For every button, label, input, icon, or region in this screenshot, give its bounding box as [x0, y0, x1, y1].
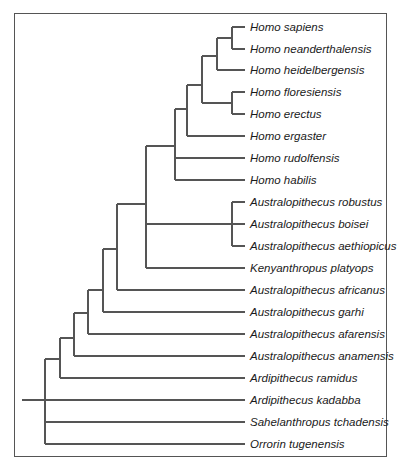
branch-heidelbergensis-clade	[217, 38, 245, 70]
leaf-label: Sahelanthropus tchadensis	[250, 415, 389, 429]
leaf-label: Homo sapiens	[250, 20, 324, 34]
leaf-label: Australopithecus anamensis	[250, 349, 394, 363]
leaf-label: Homo erectus	[250, 107, 322, 121]
leaf-label: Australopithecus africanus	[250, 283, 385, 297]
leaf-label: Australopithecus aethiopicus	[250, 239, 396, 253]
leaf-label: Australopithecus garhi	[250, 305, 364, 319]
leaf-label: Homo neanderthalensis	[250, 42, 371, 56]
leaf-label: Homo heidelbergensis	[250, 63, 364, 77]
leaf-label: Australopithecus afarensis	[250, 327, 385, 341]
leaf-label: Australopithecus boisei	[250, 217, 368, 231]
leaf-label: Ardipithecus kadabba	[250, 393, 361, 407]
leaf-label: Australopithecus robustus	[250, 195, 382, 209]
branch-root	[22, 359, 245, 444]
leaf-label: Kenyanthropus platyops	[250, 261, 373, 275]
branch-floresiensis-erectus	[232, 92, 245, 114]
leaf-label: Homo habilis	[250, 173, 316, 187]
branch-garhi-clade	[103, 249, 245, 312]
branch-ramidus-clade	[60, 338, 245, 378]
leaf-label: Homo rudolfensis	[250, 151, 339, 165]
leaf-label: Ardipithecus ramidus	[250, 371, 357, 385]
leaf-label: Homo floresiensis	[250, 85, 341, 99]
branch-sapiens-neanderthalensis	[232, 27, 245, 49]
branch-homo-clade	[175, 109, 245, 180]
branch-ergaster-clade	[187, 85, 245, 136]
branch-africanus-clade	[117, 204, 245, 290]
leaf-label: Orrorin tugenensis	[250, 437, 345, 451]
leaf-label: Homo ergaster	[250, 129, 326, 143]
branch-kenyanthropus-clade	[146, 146, 245, 268]
